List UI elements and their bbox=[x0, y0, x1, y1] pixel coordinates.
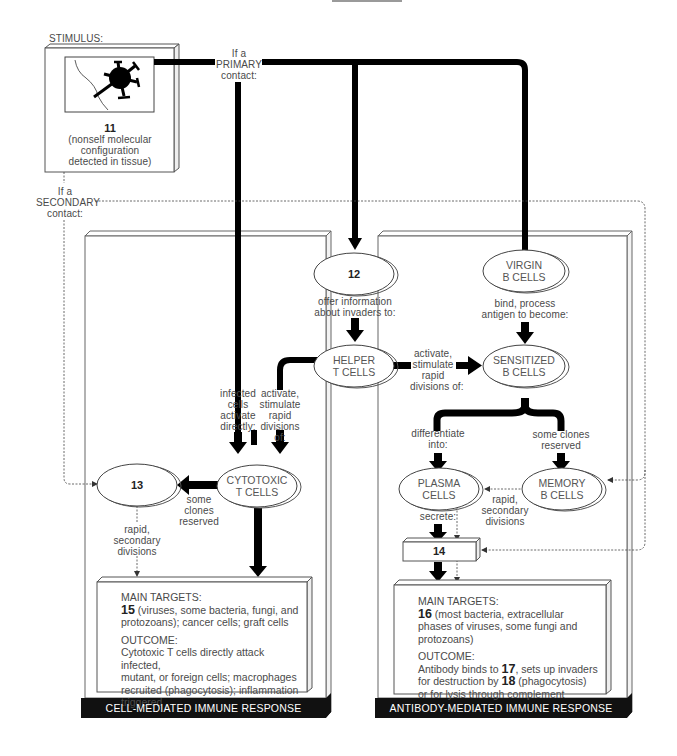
secondary-contact-label: If a SECONDARY contact: bbox=[36, 186, 94, 219]
label-line: differentiate bbox=[408, 428, 468, 439]
node-memory-b-label: MEMORY B CELLS bbox=[522, 477, 602, 501]
label-line: antigen to become: bbox=[480, 309, 570, 320]
edge-label-t-clones-reserved: some clones reserved bbox=[176, 494, 222, 527]
label-line: divisions of: bbox=[410, 381, 456, 392]
edge-label-activate-b: activate, stimulate rapid divisions of: bbox=[410, 348, 456, 392]
label-line: B CELLS bbox=[522, 489, 602, 501]
label-line: clones bbox=[176, 505, 222, 516]
main-targets-line: protozoans) bbox=[418, 633, 608, 646]
main-targets-line: protozoans); cancer cells; graft cells bbox=[121, 616, 306, 629]
main-targets-line: 16 (most bacteria, extracellular bbox=[418, 608, 608, 621]
label-line: SENSITIZED bbox=[484, 354, 564, 366]
main-targets-line: phases of viruses, some fungi and bbox=[418, 620, 608, 633]
outcome-line: recruited (phagocytosis); inflammation bbox=[121, 684, 306, 697]
antibody-mediated-outcome-text: MAIN TARGETS: 16 (most bacteria, extrace… bbox=[418, 595, 608, 700]
stimulus-caption-line: (nonself molecular bbox=[60, 134, 160, 145]
label-line: CELLS bbox=[399, 489, 479, 501]
label-line: PRIMARY bbox=[214, 59, 264, 70]
main-targets-desc: (most bacteria, extracellular bbox=[432, 608, 564, 620]
antibody-mediated-banner: ANTIBODY-MEDIATED IMMUNE RESPONSE bbox=[375, 702, 627, 714]
label-line: rapid, bbox=[112, 524, 162, 535]
main-targets-desc: (viruses, some bacteria, fungi, and bbox=[135, 604, 298, 616]
outcome-text: for destruction by bbox=[418, 675, 501, 687]
main-targets-number: 15 bbox=[121, 603, 135, 617]
outcome-text: , sets up invaders bbox=[515, 663, 597, 675]
stimulus-caption-line: configuration bbox=[60, 145, 160, 156]
label-line: some bbox=[176, 494, 222, 505]
node-virgin-b-label: VIRGIN B CELLS bbox=[484, 259, 564, 283]
main-targets-heading: MAIN TARGETS: bbox=[121, 591, 306, 604]
label-line: activate, bbox=[258, 388, 302, 399]
label-line: T CELLS bbox=[217, 486, 297, 498]
label-line: CYTOTOXIC bbox=[217, 474, 297, 486]
edge-label-infected-cells: infected cells activate directly: bbox=[218, 388, 258, 432]
stimulus-heading: STIMULUS: bbox=[49, 33, 103, 44]
main-targets-heading: MAIN TARGETS: bbox=[418, 595, 608, 608]
outcome-text: (phagocytosis) bbox=[515, 675, 586, 687]
label-line: divisions bbox=[258, 421, 302, 432]
label-line: SECONDARY bbox=[36, 197, 94, 208]
node-helper-t-label: HELPER T CELLS bbox=[314, 354, 394, 378]
edge-label-activate-t: activate, stimulate rapid divisions of: bbox=[258, 388, 302, 443]
stimulus-number: 11 bbox=[60, 122, 160, 134]
main-targets-number: 16 bbox=[418, 607, 432, 621]
label-line: VIRGIN bbox=[484, 259, 564, 271]
label-line: PLASMA bbox=[399, 477, 479, 489]
edge-label-b-rapid-secondary: rapid, secondary divisions bbox=[480, 494, 530, 527]
label-line: divisions bbox=[112, 546, 162, 557]
node-14-label: 14 bbox=[409, 545, 469, 557]
label-line: contact: bbox=[214, 70, 264, 81]
edge-label-secrete: secrete: bbox=[418, 511, 458, 522]
label-line: stimulate bbox=[410, 359, 456, 370]
outcome-heading: OUTCOME: bbox=[121, 634, 306, 647]
label-line: rapid bbox=[258, 410, 302, 421]
node-13-label: 13 bbox=[107, 479, 167, 491]
label-line: bind, process bbox=[480, 298, 570, 309]
stimulus-caption: 11 (nonself molecular configuration dete… bbox=[60, 122, 160, 167]
node-12-label: 12 bbox=[324, 268, 384, 280]
label-line: stimulate bbox=[258, 399, 302, 410]
edge-label-t-rapid-secondary: rapid, secondary divisions bbox=[112, 524, 162, 557]
edge-label-bind-process: bind, process antigen to become: bbox=[480, 298, 570, 320]
label-line: reserved bbox=[176, 516, 222, 527]
label-line: MEMORY bbox=[522, 477, 602, 489]
label-line: B CELLS bbox=[484, 366, 564, 378]
label-line: secondary bbox=[480, 505, 530, 516]
cell-mediated-banner: CELL-MEDIATED IMMUNE RESPONSE bbox=[81, 702, 326, 714]
label-line: of: bbox=[258, 432, 302, 443]
label-line: offer information bbox=[314, 296, 396, 307]
label-line: about invaders to: bbox=[314, 307, 396, 318]
node-sensitized-b-label: SENSITIZED B CELLS bbox=[484, 354, 564, 378]
label-line: If a bbox=[214, 48, 264, 59]
node-cytotoxic-t-label: CYTOTOXIC T CELLS bbox=[217, 474, 297, 498]
label-line: If a bbox=[36, 186, 94, 197]
outcome-line: mutant, or foreign cells; macrophages bbox=[121, 671, 306, 684]
label-line: activate bbox=[218, 410, 258, 421]
label-line: rapid, bbox=[480, 494, 530, 505]
node-plasma-label: PLASMA CELLS bbox=[399, 477, 479, 501]
outcome-line: for destruction by 18 (phagocytosis) bbox=[418, 675, 608, 688]
label-line: activate, bbox=[410, 348, 456, 359]
edge-label-b-clones-reserved: some clones reserved bbox=[528, 429, 594, 451]
edge-label-offer-info: offer information about invaders to: bbox=[314, 296, 396, 318]
edge-label-differentiate: differentiate into: bbox=[408, 428, 468, 450]
label-line: rapid bbox=[410, 370, 456, 381]
label-line: divisions bbox=[480, 516, 530, 527]
label-line: HELPER bbox=[314, 354, 394, 366]
label-line: infected bbox=[218, 388, 258, 399]
label-line: into: bbox=[408, 439, 468, 450]
label-line: reserved bbox=[528, 440, 594, 451]
label-line: cells bbox=[218, 399, 258, 410]
outcome-text: Antibody binds to bbox=[418, 663, 501, 675]
cell-mediated-outcome-text: MAIN TARGETS: 15 (viruses, some bacteria… bbox=[121, 591, 306, 709]
label-line: secondary bbox=[112, 535, 162, 546]
outcome-line: Cytotoxic T cells directly attack infect… bbox=[121, 646, 306, 671]
main-targets-line: 15 (viruses, some bacteria, fungi, and bbox=[121, 604, 306, 617]
label-line: contact: bbox=[36, 208, 94, 219]
label-line: B CELLS bbox=[484, 271, 564, 283]
primary-contact-label: If a PRIMARY contact: bbox=[214, 48, 264, 81]
outcome-number-18: 18 bbox=[501, 674, 515, 688]
stimulus-caption-line: detected in tissue) bbox=[60, 156, 160, 167]
label-line: some clones bbox=[528, 429, 594, 440]
outcome-line: or for lysis through complement bbox=[418, 688, 608, 701]
